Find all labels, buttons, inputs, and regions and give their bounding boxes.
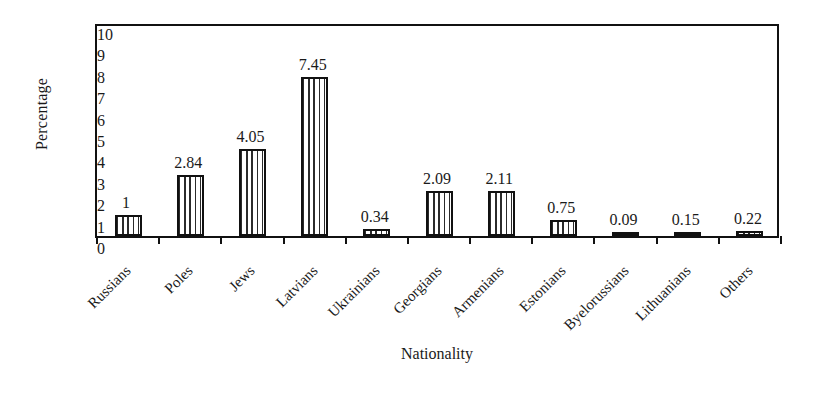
bar-latvians bbox=[301, 77, 328, 236]
x-tick-mark bbox=[593, 236, 595, 244]
bar-others bbox=[736, 231, 763, 236]
x-tick-mark bbox=[407, 236, 409, 244]
y-axis-title: Percentage bbox=[33, 54, 51, 174]
x-tick-mark bbox=[531, 236, 533, 244]
bar-chart-figure: Percentage 012345678910 RussiansPolesJew… bbox=[0, 0, 813, 395]
bar-byelorussians bbox=[612, 232, 639, 236]
bar-estonians bbox=[550, 220, 577, 236]
bar-value-label-poles: 2.84 bbox=[148, 154, 228, 172]
x-tick-mark bbox=[96, 236, 98, 244]
bar-value-label-russians: 1 bbox=[86, 194, 166, 212]
x-tick-mark bbox=[158, 236, 160, 244]
x-tick-mark bbox=[469, 236, 471, 244]
bar-value-label-others: 0.22 bbox=[708, 210, 788, 228]
x-tick-mark bbox=[345, 236, 347, 244]
x-tick-mark bbox=[283, 236, 285, 244]
bar-poles bbox=[177, 175, 204, 236]
x-tick-mark bbox=[220, 236, 222, 244]
bar-value-label-ukrainians: 0.34 bbox=[335, 208, 415, 226]
bar-value-label-jews: 4.05 bbox=[210, 128, 290, 146]
x-tick-mark bbox=[656, 236, 658, 244]
bar-value-label-armenians: 2.11 bbox=[459, 170, 539, 188]
x-tick-mark bbox=[718, 236, 720, 244]
bar-armenians bbox=[488, 191, 515, 236]
bar-jews bbox=[239, 149, 266, 236]
x-tick-mark bbox=[780, 236, 782, 244]
bar-ukrainians bbox=[363, 229, 390, 236]
bar-russians bbox=[115, 215, 142, 236]
bar-georgians bbox=[426, 191, 453, 236]
bar-lithuanians bbox=[674, 232, 701, 236]
plot-area: 012345678910 bbox=[95, 24, 779, 238]
x-axis-title: Nationality bbox=[95, 345, 779, 363]
bar-value-label-latvians: 7.45 bbox=[273, 56, 353, 74]
